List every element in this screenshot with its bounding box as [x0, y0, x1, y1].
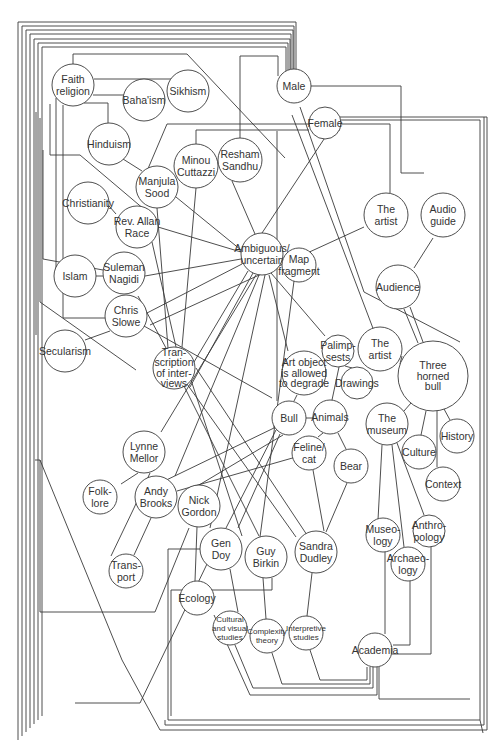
node-label: Sikhism: [170, 85, 207, 97]
node-label: lore: [91, 497, 109, 509]
node-label: museum: [367, 424, 408, 436]
node-label: History: [441, 430, 474, 442]
node-animals: Animals: [311, 400, 348, 434]
node-guybirkin: GuyBirkin: [245, 536, 287, 578]
node-label: Academia: [352, 644, 399, 656]
node-lynne: LynneMellor: [123, 431, 165, 473]
node-label: Andy: [144, 485, 169, 497]
node-label: Audience: [376, 281, 420, 293]
node-label: The: [371, 337, 389, 349]
node-label: Archaeo-: [387, 552, 430, 564]
node-label: sests: [326, 351, 351, 363]
node-female: Female: [307, 107, 342, 139]
node-theartist1: Theartist: [364, 193, 408, 237]
node-label: The: [377, 203, 395, 215]
edge-line: [404, 309, 418, 343]
node-label: Folk-: [88, 485, 112, 497]
node-cultural: Culturaland visualstudies: [212, 611, 248, 645]
node-label: Gordon: [181, 506, 216, 518]
node-feline: Feline/cat: [292, 436, 326, 470]
node-context: Context: [425, 467, 461, 501]
node-label: Christianity: [62, 197, 115, 209]
node-history: History: [440, 419, 474, 453]
edge-line: [84, 103, 108, 123]
node-label: Ecology: [178, 592, 216, 604]
node-label: Rev. Allan: [114, 215, 161, 227]
node-minou: MinouCuttazzi: [174, 144, 218, 188]
edge-line: [292, 115, 374, 331]
node-label: Cuttazzi: [177, 166, 215, 178]
node-label: Lynne: [130, 440, 158, 452]
node-bull: Bull: [272, 401, 306, 435]
concept-network-diagram: FaithreligionBaha'ismSikhismHinduismMino…: [0, 0, 503, 743]
node-anthropology: Anthro-pology: [412, 515, 447, 547]
node-label: theory: [256, 636, 278, 645]
edge-line: [263, 578, 266, 619]
node-label: Faith: [61, 73, 85, 85]
edge-line: [326, 483, 347, 532]
edge-line: [240, 56, 278, 138]
concept-nodes: FaithreligionBaha'ismSikhismHinduismMino…: [39, 64, 474, 667]
node-label: Resham: [220, 148, 259, 160]
node-label: Islam: [62, 270, 87, 282]
edge-line: [123, 159, 142, 171]
node-label: studies: [293, 633, 318, 642]
edge-line: [307, 573, 312, 616]
node-label: Dudley: [300, 552, 333, 564]
node-sandra: SandraDudley: [295, 531, 337, 573]
edge-line: [480, 720, 483, 733]
node-label: artist: [369, 349, 392, 361]
node-label: and visual: [212, 624, 248, 633]
node-museology: Museo-logy: [365, 518, 401, 552]
node-academia: Academia: [352, 633, 399, 667]
node-label: Hinduism: [87, 138, 131, 150]
node-archaeology: Archaeo-logy: [387, 547, 430, 581]
node-drawings: Drawings: [335, 367, 379, 399]
node-label: Sood: [145, 187, 170, 199]
edge-line: [378, 445, 382, 520]
node-label: Anthro-: [412, 519, 447, 531]
node-label: Nick: [189, 494, 210, 506]
node-theartist2: Theartist: [358, 327, 402, 371]
edge-line: [421, 411, 426, 435]
node-label: Nagidi: [109, 273, 139, 285]
node-threehorned: Threehornedbull: [398, 341, 468, 411]
node-label: Culture: [402, 446, 436, 458]
node-label: Context: [425, 478, 461, 490]
edge-line: [152, 242, 176, 347]
node-label: Feline/: [293, 441, 325, 453]
node-folklore: Folk-lore: [83, 480, 117, 514]
node-ecology: Ecology: [178, 581, 216, 615]
node-label: religion: [56, 85, 90, 97]
edge-line: [238, 434, 280, 528]
node-label: Slowe: [112, 316, 141, 328]
node-label: Sandra: [299, 540, 333, 552]
node-manjula: ManjulaSood: [136, 166, 178, 208]
node-islam: Islam: [54, 255, 96, 297]
node-male: Male: [277, 69, 311, 103]
node-label: Chris: [114, 304, 139, 316]
node-suleman: SulemanNagidi: [103, 252, 145, 294]
node-label: Animals: [311, 411, 348, 423]
edge-line: [85, 331, 110, 340]
node-label: views: [161, 377, 187, 389]
edge-line: [345, 366, 352, 368]
node-label: Interpretive: [286, 624, 327, 633]
node-label: Gen: [211, 537, 231, 549]
node-rev: Rev. AllanRace: [114, 206, 161, 248]
node-label: logy: [398, 564, 418, 576]
node-label: Map: [289, 253, 310, 265]
edge-line: [272, 653, 370, 684]
node-label: Female: [307, 117, 342, 129]
node-label: Bear: [340, 460, 363, 472]
node-label: Guy: [256, 545, 276, 557]
node-sikhism: Sikhism: [167, 70, 209, 112]
edge-line: [195, 527, 197, 581]
node-label: Cultural: [216, 615, 244, 624]
node-label: Race: [125, 227, 150, 239]
node-label: Bull: [280, 412, 298, 424]
edge-line: [393, 581, 410, 645]
edge-line: [271, 273, 325, 336]
node-label: pology: [414, 531, 446, 543]
node-resham: ReshamSandhu: [218, 138, 262, 182]
